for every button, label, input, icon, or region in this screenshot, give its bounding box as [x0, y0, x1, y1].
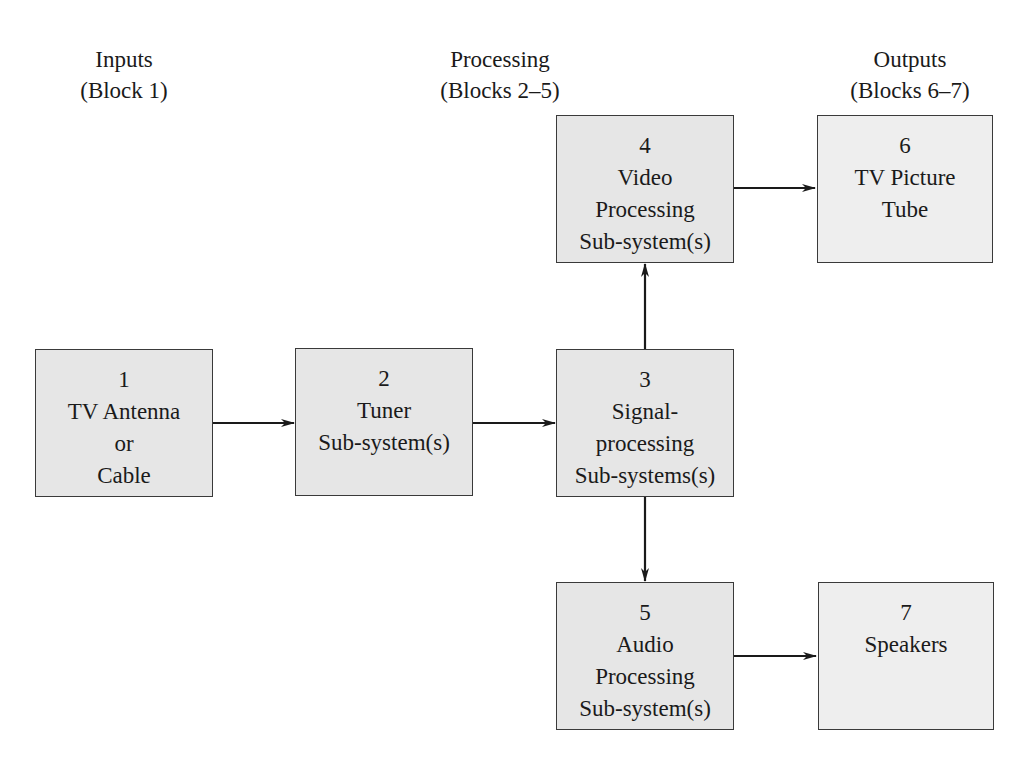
block-5-line: Processing	[557, 661, 733, 693]
block-1-line: Cable	[36, 460, 212, 492]
block-2-tuner: 2 Tuner Sub-system(s)	[295, 348, 473, 496]
block-4-video-processing: 4 Video Processing Sub-system(s)	[556, 115, 734, 263]
block-7-speakers: 7 Speakers	[818, 582, 994, 730]
block-3-line: processing	[557, 428, 733, 460]
block-4-line: Sub-system(s)	[557, 226, 733, 258]
block-5-line: Sub-system(s)	[557, 693, 733, 725]
block-5-line: Audio	[557, 629, 733, 661]
block-2-line: Tuner	[296, 395, 472, 427]
block-3-line: Sub-systems(s)	[557, 460, 733, 492]
block-6-picture-tube: 6 TV Picture Tube	[817, 115, 993, 263]
block-2-line: Sub-system(s)	[296, 427, 472, 459]
block-5-number: 5	[557, 597, 733, 629]
block-2-number: 2	[296, 363, 472, 395]
block-1-line: or	[36, 428, 212, 460]
block-3-number: 3	[557, 364, 733, 396]
block-6-line: Tube	[818, 194, 992, 226]
block-1-number: 1	[36, 364, 212, 396]
block-4-line: Processing	[557, 194, 733, 226]
block-4-number: 4	[557, 130, 733, 162]
block-1-line: TV Antenna	[36, 396, 212, 428]
block-3-line: Signal-	[557, 396, 733, 428]
block-3-signal-processing: 3 Signal- processing Sub-systems(s)	[556, 349, 734, 497]
block-1-tv-antenna: 1 TV Antenna or Cable	[35, 349, 213, 497]
block-6-number: 6	[818, 130, 992, 162]
block-7-line: Speakers	[819, 629, 993, 661]
block-7-number: 7	[819, 597, 993, 629]
block-6-line: TV Picture	[818, 162, 992, 194]
block-4-line: Video	[557, 162, 733, 194]
block-5-audio-processing: 5 Audio Processing Sub-system(s)	[556, 582, 734, 730]
